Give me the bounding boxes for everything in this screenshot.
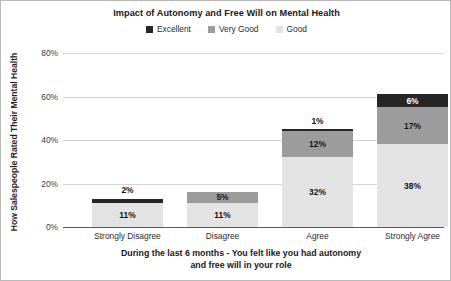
x-tick-label-disagree: Disagree [187,231,258,241]
plot-area: 80% 60% 40% 20% 0% 2% 11% Strongly Disag… [63,53,444,227]
bar-stack-strongly-disagree: 11% [92,199,163,227]
chart-legend: Excellent Very Good Good [1,25,451,33]
chart-container: Impact of Autonomy and Free Will on Ment… [0,0,451,281]
bar-group-strongly-agree[interactable]: 38% 17% 6% Strongly Agree [377,53,448,227]
bar-segment-label-good-agree: 32% [309,188,326,196]
bar-group-agree[interactable]: 1% 32% 12% Agree [282,53,353,227]
bar-segment-label-very-good-disagree: 5% [216,193,228,201]
bar-group-disagree[interactable]: 11% 5% Disagree [187,53,258,227]
bar-segment-label-very-good-agree: 12% [309,140,326,148]
bar-segment-label-excellent-strongly-agree: 6% [406,97,418,105]
y-axis-title-text: How Salespeople Rated Their Mental Healt… [9,52,19,231]
bar-segment-label-very-good-strongly-agree: 17% [404,122,421,130]
legend-label-excellent: Excellent [157,25,191,33]
y-tick-label-80: 80% [41,48,58,58]
bar-stack-agree: 32% 12% [282,129,353,227]
bar-segment-good-disagree[interactable]: 11% [187,203,258,227]
bar-stack-disagree: 11% 5% [187,192,258,227]
bar-segment-very-good-agree[interactable]: 12% [282,131,353,157]
x-tick-label-agree: Agree [282,231,353,241]
y-tick-label-0: 0% [46,222,58,232]
legend-item-good[interactable]: Good [276,25,308,33]
chart-title: Impact of Autonomy and Free Will on Ment… [1,8,451,18]
bar-segment-excellent-strongly-agree[interactable]: 6% [377,94,448,107]
bar-segment-very-good-disagree[interactable]: 5% [187,192,258,203]
y-axis-title: How Salespeople Rated Their Mental Healt… [5,1,23,281]
legend-swatch-good [276,26,283,33]
bar-stack-strongly-agree: 38% 17% 6% [377,94,448,227]
x-axis-title-line2: and free will in your role [41,260,441,272]
y-tick-label-20: 20% [41,179,58,189]
x-axis-title: During the last 6 months - You felt like… [41,248,441,271]
legend-label-very-good: Very Good [219,25,259,33]
legend-item-excellent[interactable]: Excellent [146,25,191,33]
bar-segment-label-good-strongly-disagree: 11% [119,211,135,219]
bar-segment-good-strongly-disagree[interactable]: 11% [92,203,163,227]
legend-swatch-very-good [208,26,215,33]
x-axis-title-line1: During the last 6 months - You felt like… [41,248,441,260]
bar-outside-label-agree: 1% [282,117,353,125]
legend-label-good: Good [287,25,308,33]
bar-segment-good-agree[interactable]: 32% [282,157,353,227]
bar-segment-excellent-agree[interactable] [282,129,353,131]
bar-group-strongly-disagree[interactable]: 2% 11% Strongly Disagree [92,53,163,227]
x-axis-line: 0% [63,227,444,228]
y-tick-label-60: 60% [41,92,58,102]
legend-swatch-excellent [146,26,153,33]
bar-segment-excellent-strongly-disagree[interactable] [92,199,163,203]
bar-segment-label-good-disagree: 11% [214,211,230,219]
y-tick-label-40: 40% [41,135,58,145]
bar-segment-label-good-strongly-agree: 38% [404,182,421,190]
x-tick-label-strongly-disagree: Strongly Disagree [92,231,163,241]
bar-outside-label-strongly-disagree: 2% [92,186,163,194]
legend-item-very-good[interactable]: Very Good [208,25,259,33]
x-tick-label-strongly-agree: Strongly Agree [377,231,448,241]
bar-segment-very-good-strongly-agree[interactable]: 17% [377,107,448,144]
bar-segment-good-strongly-agree[interactable]: 38% [377,144,448,227]
